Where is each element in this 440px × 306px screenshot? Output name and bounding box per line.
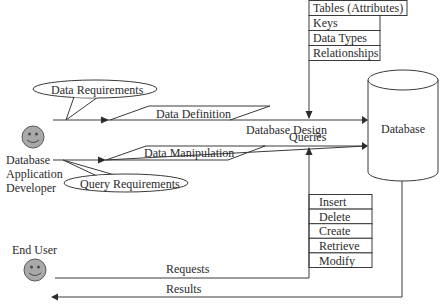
data-manipulation-label: Data Manipulation <box>144 146 234 160</box>
requests-label: Requests <box>166 262 210 276</box>
query-requirements-label: Query Requirements <box>80 177 180 191</box>
end-user-label: End User <box>12 243 57 257</box>
design-items-box: Tables (Attributes) Keys Data Types Rela… <box>309 1 407 61</box>
operation-create: Create <box>319 224 350 238</box>
design-item-data-types: Data Types <box>313 31 367 45</box>
data-requirements-label: Data Requirements <box>51 83 144 97</box>
results-label: Results <box>166 282 202 296</box>
design-item-relationships: Relationships <box>313 46 379 60</box>
developer-label-line3: Developer <box>6 181 56 195</box>
design-item-keys: Keys <box>313 16 338 30</box>
operation-retrieve: Retrieve <box>319 239 360 253</box>
developer-label-line2: Application <box>6 167 63 181</box>
data-definition-label: Data Definition <box>156 107 231 121</box>
database-label: Database <box>381 122 425 136</box>
database-system-diagram: Tables (Attributes) Keys Data Types Rela… <box>0 0 440 306</box>
design-item-tables: Tables (Attributes) <box>313 1 403 15</box>
operation-modify: Modify <box>319 254 355 268</box>
operation-insert: Insert <box>319 195 347 209</box>
arrow-into-database-1 <box>362 116 368 124</box>
operations-box: Insert Delete Create Retrieve Modify <box>309 195 372 268</box>
developer-avatar <box>22 126 44 148</box>
queries-label: Queries <box>289 130 327 144</box>
end-user-avatar <box>24 259 46 281</box>
database-cylinder: Database <box>368 70 438 181</box>
arrow-into-database-2 <box>362 142 368 150</box>
operation-delete: Delete <box>319 210 350 224</box>
developer-label-line1: Database <box>6 153 50 167</box>
data-requirements-callout: Data Requirements <box>33 80 157 120</box>
query-requirements-callout: Query Requirements <box>63 160 188 192</box>
results-arrowhead <box>51 294 58 301</box>
